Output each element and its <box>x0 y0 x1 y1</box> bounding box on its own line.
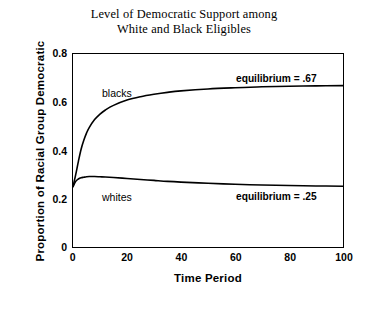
y-axis-title: Proportion of Racial Group Democratic <box>34 31 46 271</box>
y-tick-label-0.6: 0.6 <box>52 97 67 107</box>
equilibrium-annotation-whites: equilibrium = .25 <box>236 191 317 202</box>
equilibrium-annotation-blacks: equilibrium = .67 <box>236 73 317 84</box>
x-tick-label-20: 20 <box>121 252 133 263</box>
x-tick-label-100: 100 <box>335 252 353 263</box>
series-line-whites <box>73 177 343 187</box>
series-label-whites: whites <box>102 192 132 203</box>
x-tick-label-60: 60 <box>230 252 242 263</box>
series-line-blacks <box>73 86 343 187</box>
x-tick-label-80: 80 <box>284 252 296 263</box>
series-label-blacks: blacks <box>102 88 132 99</box>
y-tick-label-0: 0 <box>61 242 67 252</box>
y-tick-label-0.4: 0.4 <box>52 146 67 156</box>
chart-figure: Level of Democratic Support among White … <box>0 0 368 312</box>
x-tick-label-0: 0 <box>70 252 76 263</box>
y-tick-label-0.2: 0.2 <box>52 194 67 204</box>
chart-title-line-1: Level of Democratic Support among <box>0 7 368 22</box>
y-tick-label-0.8: 0.8 <box>52 48 67 58</box>
chart-title-line-2: White and Black Eligibles <box>0 22 368 37</box>
chart-title: Level of Democratic Support among White … <box>0 7 368 37</box>
x-axis-title: Time Period <box>72 272 344 284</box>
x-tick-label-40: 40 <box>176 252 188 263</box>
